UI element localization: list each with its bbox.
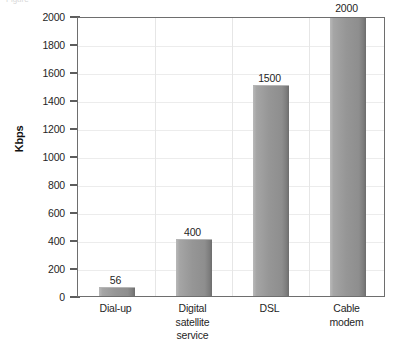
plot-area <box>77 17 385 297</box>
bar <box>253 85 289 296</box>
gridline-vertical <box>232 18 233 296</box>
y-tick-label: 1600 <box>17 67 65 79</box>
y-tick-label: 600 <box>17 207 65 219</box>
gridline-vertical <box>309 18 310 296</box>
bar-value-label: 56 <box>110 274 121 286</box>
bar-value-label: 400 <box>184 226 201 238</box>
y-tick-label: 1000 <box>17 151 65 163</box>
bar <box>99 287 135 296</box>
bar <box>330 17 366 296</box>
y-tick-label: 0 <box>17 291 65 303</box>
y-tick-label: 400 <box>17 235 65 247</box>
x-category-label: Dial-up <box>100 302 132 316</box>
y-tick-label: 2000 <box>17 11 65 23</box>
x-category-label: DSL <box>260 302 280 316</box>
y-tick-label: 1800 <box>17 39 65 51</box>
x-category-label: Digital satellite service <box>176 302 210 343</box>
y-tick-label: 1400 <box>17 95 65 107</box>
x-category-label: Cable modem <box>329 302 363 329</box>
bar-chart-figure: Kbps 02004006008001000120014001600180020… <box>0 0 404 352</box>
gridline-vertical <box>155 18 156 296</box>
bar-value-label: 2000 <box>335 2 358 14</box>
y-tick-label: 200 <box>17 263 65 275</box>
bar <box>176 239 212 296</box>
y-tick-label: 800 <box>17 179 65 191</box>
y-tick-label: 1200 <box>17 123 65 135</box>
bar-value-label: 1500 <box>258 72 281 84</box>
